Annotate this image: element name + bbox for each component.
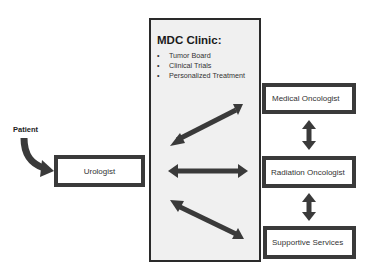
double-arrow-supportive-icon	[170, 200, 244, 239]
double-arrow-radiation-icon	[168, 164, 248, 178]
patient-curved-arrow-icon	[24, 138, 54, 177]
connector-arrows	[0, 0, 371, 276]
double-arrow-rad-sup-icon	[302, 193, 316, 221]
double-arrow-medical-icon	[170, 104, 243, 146]
double-arrow-med-rad-icon	[302, 120, 316, 150]
